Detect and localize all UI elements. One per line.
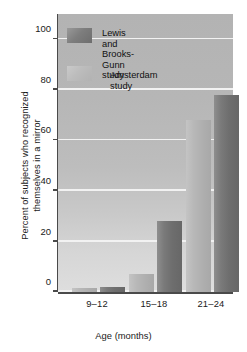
y-axis-title: Percent of subjects who recognized thems… xyxy=(20,41,43,291)
bar-chart-figure: Percent of subjects who recognized thems… xyxy=(0,0,247,352)
y-axis-title-line1: Percent of subjects who recognized xyxy=(20,41,32,291)
plot-area: 0 20 40 60 80 100 Lewis and Brooks- Gunn… xyxy=(57,14,233,292)
y-tick-label-0: 0 xyxy=(46,276,51,287)
x-axis-title: Age (months) xyxy=(0,330,247,341)
y-tick-label-100: 100 xyxy=(35,23,51,34)
legend-label-amsterdam: Amsterdam study xyxy=(110,70,158,91)
legend: Lewis and Brooks- Gunn study Amsterdam s… xyxy=(58,14,233,292)
y-tick-label-40: 40 xyxy=(40,175,51,186)
y-tick-label-20: 20 xyxy=(40,225,51,236)
y-tick-label-80: 80 xyxy=(40,73,51,84)
legend-swatch-amsterdam xyxy=(67,66,92,81)
x-tick-label-2: 21–24 xyxy=(197,298,224,309)
x-tick-label-0: 9–12 xyxy=(86,298,108,309)
x-tick-label-1: 15–18 xyxy=(140,298,167,309)
y-tick-label-60: 60 xyxy=(40,124,51,135)
legend-swatch-lewis xyxy=(67,28,92,43)
